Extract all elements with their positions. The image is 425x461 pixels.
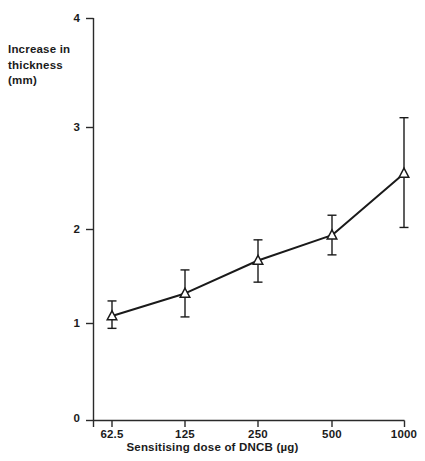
data-point-1000 xyxy=(399,118,409,228)
marker-triangle-1000 xyxy=(399,168,409,177)
data-point-500 xyxy=(327,215,337,255)
y-axis-ticks xyxy=(86,19,94,421)
data-point-125 xyxy=(180,270,190,317)
x-axis-ticks xyxy=(94,421,405,428)
axis-lines xyxy=(93,18,405,421)
data-series-layer xyxy=(107,118,409,329)
data-point-250 xyxy=(253,240,263,282)
line-chart-plot xyxy=(0,0,425,461)
